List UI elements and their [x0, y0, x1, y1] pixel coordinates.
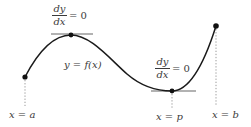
calculus-curve-figure: dy dx = 0 y = f(x) dy dx = 0 x = a x = p… — [0, 0, 251, 127]
fraction-denominator: dx — [52, 17, 66, 28]
point-local-maximum — [69, 33, 74, 38]
equals-zero-minimum: = 0 — [172, 63, 190, 74]
fraction-dy-dx-minimum: dy dx — [155, 57, 170, 80]
derivative-label-minimum: dy dx = 0 — [155, 57, 190, 80]
x-label-a: x = a — [9, 110, 35, 120]
derivative-label-maximum: dy dx = 0 — [52, 4, 87, 27]
point-local-minimum — [170, 89, 175, 94]
point-right-endpoint — [213, 23, 219, 29]
fraction-dy-dx-maximum: dy dx — [52, 4, 67, 27]
fraction-denominator: dx — [155, 70, 169, 81]
equals-zero-maximum: = 0 — [69, 10, 87, 21]
point-left-endpoint — [22, 74, 27, 79]
fraction-numerator: dy — [52, 4, 66, 15]
curve-canvas — [0, 0, 251, 127]
x-label-p: x = p — [156, 112, 183, 122]
function-label: y = f(x) — [64, 60, 102, 70]
fraction-numerator: dy — [155, 57, 169, 68]
x-label-b: x = b — [212, 110, 239, 120]
